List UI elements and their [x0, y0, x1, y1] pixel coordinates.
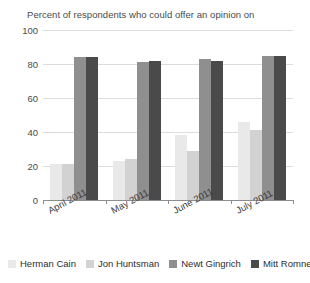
- legend-swatch-icon: [169, 260, 177, 268]
- bar: [238, 122, 250, 200]
- legend-item[interactable]: Newt Gingrich: [169, 258, 241, 269]
- legend-item[interactable]: Herman Cain: [8, 258, 76, 269]
- legend-label: Jon Huntsman: [98, 258, 159, 269]
- y-tick-label: 20: [27, 161, 38, 172]
- bar: [137, 62, 149, 200]
- bar-group: [43, 30, 106, 200]
- bar-chart: Percent of respondents who could offer a…: [0, 0, 310, 283]
- bar-groups: [43, 30, 293, 200]
- bar: [211, 61, 223, 200]
- y-tick-label: 80: [27, 59, 38, 70]
- bar: [262, 56, 274, 201]
- y-tick-label: 60: [27, 93, 38, 104]
- y-tick-label: 100: [22, 25, 38, 36]
- x-tick: [43, 200, 44, 204]
- legend-label: Newt Gingrich: [181, 258, 241, 269]
- bar: [86, 57, 98, 200]
- bar-group: [231, 30, 294, 200]
- y-tick-label: 40: [27, 127, 38, 138]
- x-tick: [168, 200, 169, 204]
- plot-area: 020406080100 April 2011May 2011June 2011…: [43, 30, 293, 200]
- legend-swatch-icon: [8, 260, 16, 268]
- chart-title: Percent of respondents who could offer a…: [27, 9, 254, 20]
- bar: [74, 57, 86, 200]
- x-tick: [231, 200, 232, 204]
- legend-label: Mitt Romney: [263, 258, 310, 269]
- x-tick: [106, 200, 107, 204]
- bar: [175, 135, 187, 200]
- legend-item[interactable]: Mitt Romney: [251, 258, 310, 269]
- legend-item[interactable]: Jon Huntsman: [86, 258, 159, 269]
- x-tick: [293, 200, 294, 204]
- bar-group: [168, 30, 231, 200]
- legend-swatch-icon: [251, 260, 259, 268]
- bar: [149, 61, 161, 200]
- bar: [250, 130, 262, 200]
- bar: [113, 161, 125, 200]
- bar-group: [106, 30, 169, 200]
- bar: [199, 59, 211, 200]
- bar: [50, 164, 62, 200]
- bar: [274, 56, 286, 201]
- legend-label: Herman Cain: [20, 258, 76, 269]
- legend: Herman CainJon HuntsmanNewt GingrichMitt…: [8, 258, 304, 269]
- legend-swatch-icon: [86, 260, 94, 268]
- y-tick-label: 0: [33, 195, 38, 206]
